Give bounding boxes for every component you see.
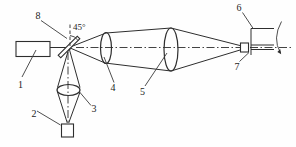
leader-6: [243, 13, 254, 30]
label-7: 7: [235, 61, 240, 72]
ray-lens4-to-lens5-top: [106, 28, 171, 33]
ray-lens4-to-lens5-bottom: [105, 63, 171, 71]
label-8: 8: [36, 10, 41, 21]
leader-7: [240, 53, 250, 62]
diagram-canvas: 1 2 3 4 5 6 7 8 45°: [0, 0, 296, 147]
detector-box: [62, 124, 74, 137]
leader-8: [41, 21, 67, 39]
label-leaders: [22, 13, 254, 126]
beam-rays: [50, 28, 245, 123]
label-6: 6: [237, 2, 242, 13]
label-2: 2: [32, 108, 37, 119]
ray-lens5-to-focus-top: [171, 28, 245, 47]
lens-5: [164, 28, 178, 71]
rotation-arc: [276, 22, 281, 54]
label-5: 5: [140, 86, 145, 97]
optical-schematic-diagram: 1 2 3 4 5 6 7 8 45°: [0, 0, 296, 147]
labels: 1 2 3 4 5 6 7 8 45°: [18, 2, 242, 119]
ray-lens3-to-detector-left: [58, 92, 68, 123]
lens-4: [101, 33, 112, 64]
label-4: 4: [111, 82, 116, 93]
ray-mirror-to-lens4-bottom: [69, 48, 105, 64]
focal-stop: [241, 43, 249, 52]
leader-2: [37, 111, 61, 125]
ray-lens3-to-detector-right: [69, 92, 80, 123]
label-3: 3: [92, 103, 97, 114]
lens-3: [57, 85, 80, 96]
ray-mirror-to-lens3-right: [69, 48, 80, 88]
label-angle-45: 45°: [73, 22, 86, 32]
leader-5: [145, 53, 167, 86]
source-box: [16, 42, 50, 57]
label-1: 1: [18, 79, 23, 90]
leader-3: [80, 93, 91, 106]
receiver-assembly: [241, 22, 282, 56]
